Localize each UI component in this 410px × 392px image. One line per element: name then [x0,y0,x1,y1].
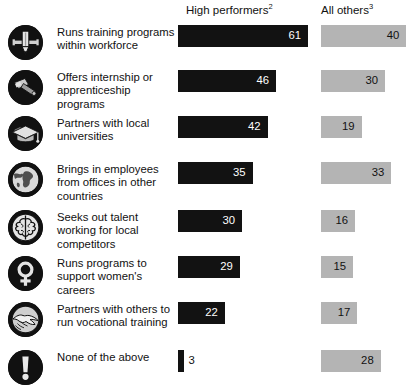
bar-value-all-others: 19 [342,121,362,132]
row-label-line: None of the above [57,351,177,364]
row-label-line: Brings in employees [57,163,177,176]
graduation-cap-icon [8,116,43,151]
bar-high-performers: 22 [178,302,225,324]
bar-all-others: 40 [321,25,406,47]
bar-value-high-performers: 46 [256,75,276,86]
exclamation-mark-icon [8,350,43,385]
hammer-icon [8,70,43,105]
globe-icon [8,162,43,197]
row-label-line: apprenticeship programs [57,84,177,111]
column-header-all-others-text: All others [321,4,369,16]
bar-value-high-performers: 29 [220,261,240,272]
bar-all-others: 19 [321,116,362,138]
bar-all-others: 17 [321,302,357,324]
row-label-line: careers [57,284,177,297]
bar-high-performers: 35 [178,162,253,184]
bar-all-others: 28 [321,350,381,372]
column-header-high-performers-text: High performers [186,4,268,16]
bar-value-all-others: 33 [372,167,392,178]
bar-value-high-performers: 22 [205,307,225,318]
bar-all-others: 16 [321,210,355,232]
row-label: Runs programs tosupport women'scareers [57,257,177,297]
chart-root: High performers2 All others3 Runs traini… [0,0,410,392]
row-label-line: support women's [57,270,177,283]
female-symbol-icon [8,256,43,291]
row-label-line: countries [57,190,177,203]
row-label-line: competitors [57,238,177,251]
bar-value-high-performers: 35 [233,167,253,178]
row-label: Brings in employeesfrom offices in other… [57,163,177,203]
bar-all-others: 33 [321,162,391,184]
bar-high-performers: 29 [178,256,240,278]
row-label-line: working for local [57,224,177,237]
row-label-line: universities [57,130,177,143]
column-header-high-performers-footnote: 2 [268,2,272,11]
bar-value-high-performers: 30 [222,215,242,226]
bar-high-performers: 46 [178,70,276,92]
bar-value-all-others: 28 [361,355,381,366]
bar-high-performers: 42 [178,116,268,138]
row-label-line: Runs programs to [57,257,177,270]
bar-value-high-performers: 3 [184,355,194,366]
row-label-line: Partners with others to [57,303,177,316]
bar-value-high-performers: 42 [248,121,268,132]
row-label: Runs training programswithin workforce [57,26,177,53]
row-label-line: Seeks out talent [57,211,177,224]
column-header-all-others: All others3 [321,3,373,17]
row-label: Partners with localuniversities [57,117,177,144]
row-label-line: from offices in other [57,176,177,189]
bar-value-all-others: 15 [333,261,353,272]
bar-value-all-others: 17 [338,307,358,318]
bar-high-performers: 3 [178,350,184,372]
row-label-line: Partners with local [57,117,177,130]
bar-all-others: 15 [321,256,353,278]
bar-value-all-others: 40 [387,30,407,41]
handshake-icon [8,302,43,337]
row-label-line: within workforce [57,39,177,52]
column-header-high-performers: High performers2 [186,3,273,17]
bar-all-others: 30 [321,70,385,92]
row-label-line: run vocational training [57,316,177,329]
row-label: Offers internship orapprenticeship progr… [57,71,177,111]
bar-value-all-others: 30 [365,75,385,86]
pencil-icon [8,25,43,60]
bar-high-performers: 61 [178,25,308,47]
bar-value-all-others: 16 [336,215,356,226]
row-label-line: Offers internship or [57,71,177,84]
brain-icon [8,210,43,245]
row-label: Seeks out talentworking for localcompeti… [57,211,177,251]
row-label-line: Runs training programs [57,26,177,39]
row-label: Partners with others torun vocational tr… [57,303,177,330]
row-label: None of the above [57,351,177,364]
column-header-all-others-footnote: 3 [369,2,373,11]
bar-value-high-performers: 61 [288,30,308,41]
bar-high-performers: 30 [178,210,242,232]
